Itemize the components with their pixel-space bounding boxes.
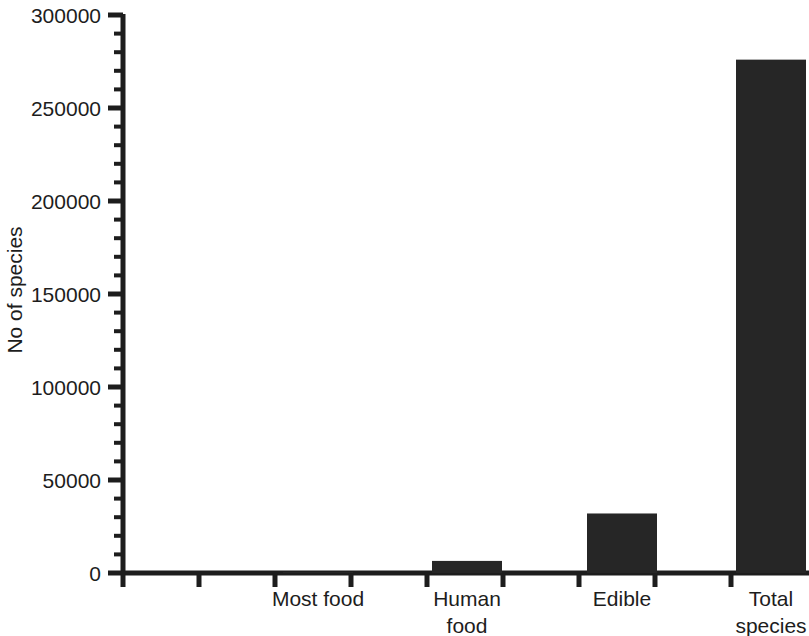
bar — [283, 572, 353, 573]
y-axis-tick-label: 0 — [89, 562, 101, 585]
x-axis-category-label: species — [735, 614, 806, 636]
bar — [736, 60, 806, 573]
bar — [432, 561, 502, 573]
y-axis-tick-label: 50000 — [43, 469, 101, 492]
bar — [587, 513, 657, 573]
y-axis-tick-label: 300000 — [31, 4, 101, 27]
x-axis-category-label: Human — [433, 587, 501, 610]
y-axis-tick-label: 150000 — [31, 283, 101, 306]
y-axis-title: No of species — [3, 226, 26, 353]
bar-chart: 050000100000150000200000250000300000 Mos… — [0, 0, 809, 636]
y-axis-tick-label: 100000 — [31, 376, 101, 399]
x-axis-category-label: Total — [749, 587, 793, 610]
y-axis-tick-label: 200000 — [31, 190, 101, 213]
y-axis-tick-label: 250000 — [31, 97, 101, 120]
x-axis-category-label: Most food — [272, 587, 364, 610]
chart-canvas: 050000100000150000200000250000300000 Mos… — [0, 0, 809, 636]
x-axis-category-label: food — [447, 614, 488, 636]
x-axis-category-label: Edible — [593, 587, 651, 610]
